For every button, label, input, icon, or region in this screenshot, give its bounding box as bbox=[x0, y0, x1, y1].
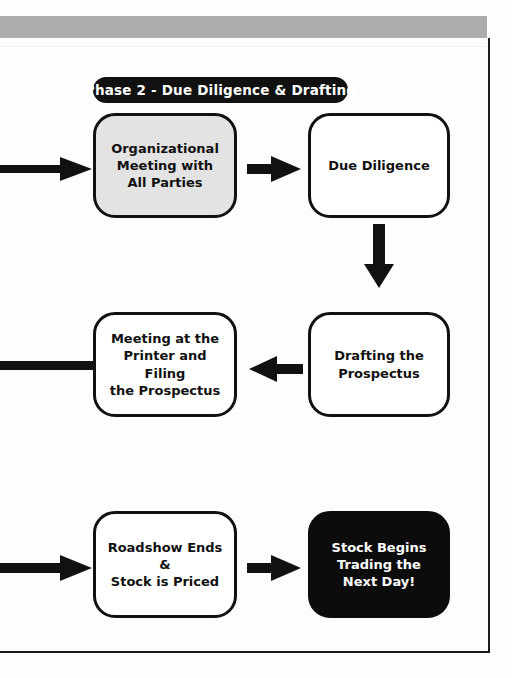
arrow-left-icon bbox=[247, 354, 303, 384]
arrow-right-icon bbox=[0, 155, 94, 183]
arrow-down-icon bbox=[363, 224, 395, 290]
flow-node-label: Due Diligence bbox=[328, 157, 429, 174]
arrow-right-icon bbox=[247, 155, 303, 183]
flow-node-stock-begins-trading[interactable]: Stock Begins Trading the Next Day! bbox=[308, 511, 450, 618]
flow-node-label: Roadshow Ends & Stock is Priced bbox=[104, 539, 226, 591]
connector-bar-icon bbox=[0, 358, 94, 372]
flow-node-roadshow-ends[interactable]: Roadshow Ends & Stock is Priced bbox=[93, 511, 237, 618]
phase-banner-label: Phase 2 - Due Diligence & Drafting bbox=[85, 82, 356, 98]
flow-node-label: Organizational Meeting with All Parties bbox=[111, 140, 219, 192]
flow-node-label: Drafting the Prospectus bbox=[334, 347, 424, 382]
flow-node-due-diligence[interactable]: Due Diligence bbox=[308, 113, 450, 218]
flow-node-organizational-meeting[interactable]: Organizational Meeting with All Parties bbox=[93, 113, 237, 218]
page-scan-background: Phase 2 - Due Diligence & Drafting Organ… bbox=[0, 0, 512, 678]
page-top-hairline bbox=[0, 46, 487, 47]
flow-node-drafting-prospectus[interactable]: Drafting the Prospectus bbox=[308, 312, 450, 417]
arrow-right-icon bbox=[247, 554, 303, 582]
flow-node-label: Meeting at the Printer and Filing the Pr… bbox=[104, 330, 226, 399]
flow-node-label: Stock Begins Trading the Next Day! bbox=[332, 539, 427, 591]
flow-node-meeting-at-printer[interactable]: Meeting at the Printer and Filing the Pr… bbox=[93, 312, 237, 417]
arrow-right-icon bbox=[0, 554, 94, 582]
page-top-banner bbox=[0, 16, 487, 38]
page-right-border bbox=[488, 38, 490, 653]
phase-banner: Phase 2 - Due Diligence & Drafting bbox=[93, 77, 348, 103]
page-bottom-border bbox=[0, 651, 490, 653]
